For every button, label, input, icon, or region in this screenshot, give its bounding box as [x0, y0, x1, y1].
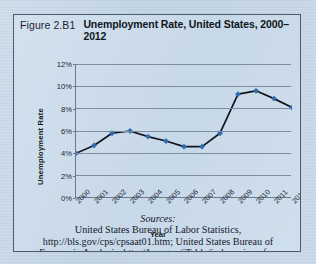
figure-title: Unemployment Rate, United States, 2000–2… — [83, 19, 294, 42]
y-axis-tick-label: 8% — [61, 104, 72, 113]
data-point-marker — [163, 138, 169, 144]
y-axis-tick-label: 4% — [61, 149, 72, 158]
sources-label: Sources: — [140, 213, 175, 224]
y-axis-tick-labels: 0%2%4%6%8%10%12% — [50, 64, 74, 198]
y-axis-tick-label: 10% — [57, 82, 72, 91]
figure-header: Figure 2.B1 Unemployment Rate, United St… — [14, 15, 300, 42]
gridline — [76, 86, 291, 87]
y-axis-tick-mark — [73, 64, 76, 65]
y-axis-tick-label: 6% — [61, 127, 72, 136]
data-point-marker — [235, 91, 241, 97]
y-axis-tick-label: 2% — [61, 171, 72, 180]
data-point-marker — [181, 144, 187, 150]
y-axis-tick-mark — [73, 176, 76, 177]
y-axis-tick-label: 12% — [57, 60, 72, 69]
plot-area — [75, 64, 291, 198]
data-point-marker — [145, 134, 151, 140]
figure-number: Figure 2.B1 — [20, 19, 75, 31]
gridline — [76, 153, 291, 154]
y-axis-title: Unemployment Rate — [36, 104, 50, 190]
gridline — [76, 131, 291, 132]
sources-line-3: Economic Analysis, http://bea.gov/iTable… — [20, 247, 296, 252]
y-axis-tick-mark — [73, 131, 76, 132]
sources-line-2: http://bls.gov/cps/cpsaat01.htm; United … — [20, 236, 296, 247]
gridline — [76, 175, 291, 176]
sources-note: Sources: United States Bureau of Labor S… — [20, 213, 296, 252]
gridline — [76, 64, 291, 65]
data-point-marker — [253, 88, 259, 94]
gridline — [76, 108, 291, 109]
data-point-marker — [271, 96, 277, 102]
y-axis-tick-mark — [73, 86, 76, 87]
sources-line-1: United States Bureau of Labor Statistics… — [20, 224, 296, 235]
y-axis-tick-label: 0% — [61, 194, 72, 203]
line-chart: Unemployment Rate 0%2%4%6%8%10%12% 20002… — [14, 42, 301, 192]
y-axis-tick-mark — [73, 153, 76, 154]
figure-box: Figure 2.B1 Unemployment Rate, United St… — [13, 14, 301, 252]
y-axis-tick-mark — [73, 109, 76, 110]
